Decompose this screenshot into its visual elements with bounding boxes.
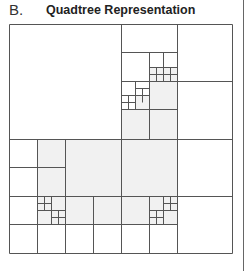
shaded-cells <box>37 67 177 224</box>
shaded-cell <box>121 139 177 196</box>
shaded-cell <box>65 139 121 196</box>
shaded-cell <box>93 196 121 224</box>
shaded-cell <box>37 139 65 167</box>
shaded-cell <box>149 196 163 210</box>
shaded-cell <box>121 196 149 224</box>
shaded-cell <box>163 210 177 224</box>
panel-divider <box>243 0 244 271</box>
shaded-cell <box>65 196 93 224</box>
shaded-cell <box>121 109 149 139</box>
shaded-cell <box>37 167 65 196</box>
shaded-cell <box>149 109 177 139</box>
shaded-cell <box>149 81 177 109</box>
quadtree-diagram <box>0 0 246 271</box>
